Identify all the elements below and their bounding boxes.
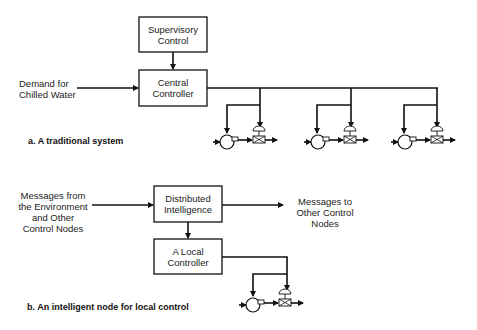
pump-valve-unit-1 bbox=[213, 126, 277, 149]
pump-valve-unit-2 bbox=[304, 126, 368, 149]
messages-in-label: Messages from the Environment and Other … bbox=[18, 190, 88, 234]
diagram-canvas bbox=[0, 0, 477, 330]
pump-valve-unit-local bbox=[239, 289, 303, 312]
caption-b: b. An intelligent node for local control bbox=[27, 302, 189, 312]
messages-out-label: Messages to Other Control Nodes bbox=[292, 196, 358, 229]
demand-input-label: Demand for Chilled Water bbox=[19, 78, 76, 100]
supervisory-control-label: Supervisory Control bbox=[139, 17, 207, 52]
local-controller-label: A Local Controller bbox=[154, 239, 222, 274]
central-controller-label: Central Controller bbox=[139, 70, 207, 106]
caption-a: a. A traditional system bbox=[28, 136, 123, 146]
pump-valve-unit-3 bbox=[391, 126, 455, 149]
distributed-intelligence-label: Distributed Intelligence bbox=[154, 186, 222, 222]
